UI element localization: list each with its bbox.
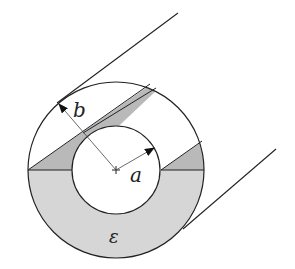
label-b: b bbox=[73, 98, 86, 122]
label-a: a bbox=[130, 163, 142, 187]
coax-diagram: b a ε bbox=[0, 0, 295, 269]
label-epsilon: ε bbox=[109, 226, 119, 247]
cylinder-top-line bbox=[57, 13, 178, 103]
